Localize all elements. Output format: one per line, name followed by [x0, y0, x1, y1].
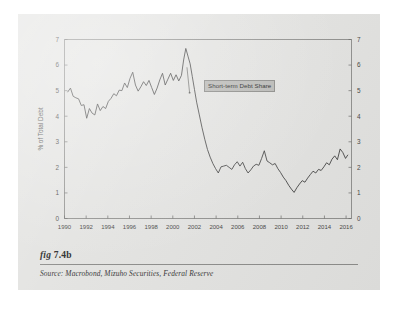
x-axis-tick-label: 1996 [123, 224, 137, 230]
y-axis-right-tick-label: 4 [357, 113, 361, 120]
y-axis-right-tick-label: 7 [357, 36, 361, 43]
y-axis-tick-label: 2 [55, 164, 59, 171]
y-axis-tick-label: 6 [55, 61, 59, 68]
x-axis-tick-label: 1990 [58, 224, 72, 230]
source-text: Macrobond, Mizuho Securities, Federal Re… [63, 269, 213, 278]
annotation-label: Short-term Debt Share [208, 82, 271, 89]
figure-number: fig 7.4b [40, 250, 360, 261]
x-axis-tick-label: 2008 [253, 224, 267, 230]
x-axis-tick-label: 2004 [209, 224, 223, 230]
caption-block: fig 7.4b Source: Macrobond, Mizuho Secur… [40, 250, 360, 278]
screenshot-root: 0123456701234567199019921994199619982000… [0, 0, 397, 309]
x-axis-tick-label: 2014 [318, 224, 332, 230]
x-axis-tick-label: 2016 [339, 224, 353, 230]
y-axis-right-tick-label: 3 [357, 138, 361, 145]
figure-number-prefix: fig [40, 250, 51, 260]
figure-number-value: 7.4b [51, 250, 72, 260]
annotation-arrow-head [189, 92, 191, 94]
y-axis-right-tick-label: 0 [357, 215, 361, 222]
x-axis-tick-label: 2010 [274, 224, 288, 230]
x-axis-tick-label: 2002 [188, 224, 202, 230]
y-axis-right-tick-label: 2 [357, 164, 361, 171]
x-axis-tick-label: 1998 [144, 224, 158, 230]
y-axis-title: % of Total Debt [37, 107, 44, 150]
y-axis-tick-label: 0 [55, 215, 59, 222]
chart-area: 0123456701234567199019921994199619982000… [18, 14, 380, 242]
x-axis-tick-label: 2012 [296, 224, 310, 230]
y-axis-tick-label: 5 [55, 87, 59, 94]
annotation-leader-line [187, 67, 190, 92]
x-axis-tick-label: 2006 [231, 224, 245, 230]
x-axis-tick-label: 1992 [79, 224, 93, 230]
series-line [68, 48, 348, 192]
x-axis-tick-label: 1994 [101, 224, 115, 230]
annotation-callout-short-term-debt-share: Short-term Debt Share [204, 80, 275, 92]
y-axis-right-tick-label: 5 [357, 87, 361, 94]
source-prefix: Source: [40, 269, 63, 278]
y-axis-tick-label: 4 [55, 113, 59, 120]
caption-divider [40, 264, 358, 265]
source-note: Source: Macrobond, Mizuho Securities, Fe… [40, 269, 360, 278]
y-axis-tick-label: 3 [55, 138, 59, 145]
y-axis-right-tick-label: 1 [357, 189, 361, 196]
y-axis-right-tick-label: 6 [357, 61, 361, 68]
x-axis-tick-label: 2000 [166, 224, 180, 230]
figure-panel: 0123456701234567199019921994199619982000… [18, 14, 380, 290]
line-chart: 0123456701234567199019921994199619982000… [18, 14, 380, 242]
y-axis-tick-label: 1 [55, 189, 59, 196]
y-axis-tick-label: 7 [55, 36, 59, 43]
